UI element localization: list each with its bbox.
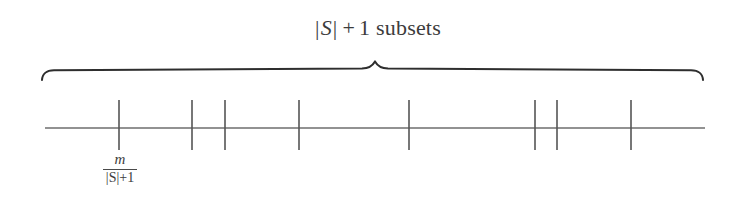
figure-container: |S|+1 subsets m |S|+1 xyxy=(0,0,731,210)
tick-marks-group xyxy=(119,100,631,150)
overbrace-left-half-icon xyxy=(42,62,375,81)
overbrace-right-half-icon xyxy=(375,62,703,81)
number-line-diagram xyxy=(0,0,731,210)
overbrace-group xyxy=(42,62,703,81)
